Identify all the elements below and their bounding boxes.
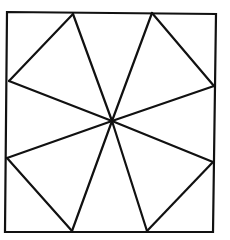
corner-chord-line xyxy=(147,162,213,231)
spoke-line xyxy=(72,121,112,231)
spoke-line xyxy=(112,121,147,231)
spoke-line xyxy=(112,13,152,121)
spoke-line xyxy=(112,121,213,162)
spoke-line xyxy=(112,86,214,121)
corner-chord-line xyxy=(9,14,73,81)
spoke-line xyxy=(9,81,112,121)
spoke-line xyxy=(73,14,112,121)
geometric-diagram xyxy=(0,0,230,240)
corner-chord-line xyxy=(152,13,214,86)
spoke-line xyxy=(7,121,112,158)
radial-spokes xyxy=(7,13,214,231)
corner-chord-line xyxy=(7,158,72,231)
